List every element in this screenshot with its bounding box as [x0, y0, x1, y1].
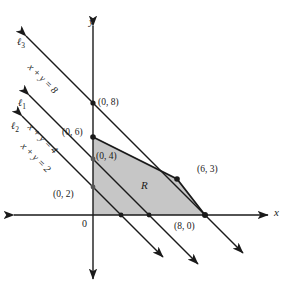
point-dot-0-6	[90, 134, 96, 140]
line-label-l2: ℓ2	[11, 121, 19, 134]
point-dot-2-0	[119, 213, 124, 218]
point-label-0-8: (0, 8)	[98, 98, 119, 108]
point-dot-0-8	[90, 100, 95, 105]
line-label-l2-sub: 2	[15, 125, 19, 134]
point-label-0-4: (0, 4)	[96, 152, 117, 162]
line-label-l3-sub: 3	[21, 41, 25, 50]
point-dot-0-2	[91, 185, 96, 190]
line-l3	[26, 36, 243, 253]
origin-label: 0	[82, 219, 87, 229]
point-label-6-3: (6, 3)	[197, 165, 218, 175]
graph-figure: y x 0 ℓ3 ℓ1 ℓ2 x + y = 8 x + y = 4 x + y…	[0, 0, 288, 292]
point-dot-4-0	[147, 213, 152, 218]
line-label-l1-sub: 1	[22, 102, 26, 111]
point-label-0-2: (0, 2)	[53, 190, 74, 200]
point-label-0-6: (0, 6)	[62, 128, 83, 138]
y-axis-label: y	[89, 16, 94, 27]
x-axis-label: x	[274, 207, 279, 218]
point-dot-0-4	[91, 157, 96, 162]
point-label-8-0: (8, 0)	[174, 222, 195, 232]
line-label-l3: ℓ3	[17, 37, 25, 50]
point-dot-6-3	[174, 176, 180, 182]
point-dot-8-0	[202, 212, 208, 218]
region-label-R: R	[141, 180, 148, 191]
line-label-l1: ℓ1	[18, 98, 26, 111]
